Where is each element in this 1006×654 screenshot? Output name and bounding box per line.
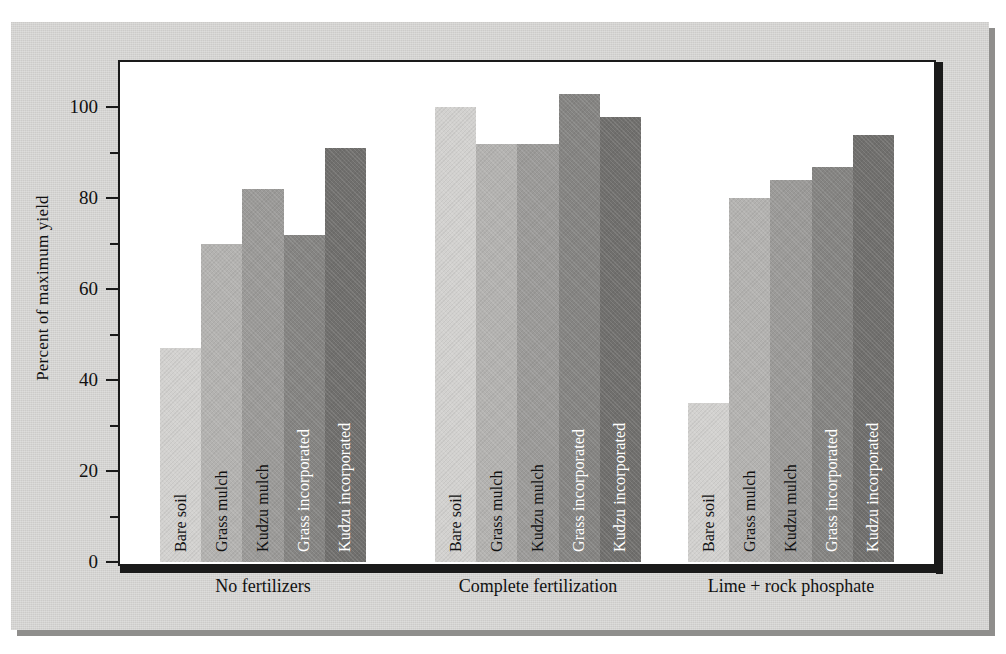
bar: Grass incorporated	[559, 94, 600, 562]
y-axis-tick-label: 80	[42, 188, 98, 207]
x-axis-group-label: No fertilizers	[120, 576, 406, 597]
y-axis-major-tick	[106, 288, 120, 290]
y-axis-minor-tick	[110, 425, 120, 427]
bar: Kudzu incorporated	[325, 148, 366, 562]
bar-label: Kudzu incorporated	[865, 423, 881, 552]
bar-label: Bare soil	[701, 494, 717, 552]
plot-frame-bottom-shadow	[120, 566, 943, 573]
y-axis-minor-tick	[110, 334, 120, 336]
y-axis-tick-label: 60	[42, 279, 98, 298]
y-axis-tick-label: 20	[42, 461, 98, 480]
y-axis-minor-tick	[110, 516, 120, 518]
bar: Kudzu incorporated	[853, 135, 894, 562]
bar: Grass mulch	[729, 198, 770, 562]
bar-label: Grass incorporated	[824, 429, 840, 552]
y-axis-minor-tick	[110, 152, 120, 154]
bar-label: Grass mulch	[742, 470, 758, 552]
bar: Bare soil	[688, 403, 729, 562]
bar: Bare soil	[160, 348, 201, 562]
bar-label: Grass mulch	[214, 470, 230, 552]
bar-label: Grass incorporated	[571, 429, 587, 552]
y-axis-major-tick	[106, 470, 120, 472]
bar-label: Kudzu incorporated	[612, 423, 628, 552]
bar-label: Bare soil	[448, 494, 464, 552]
y-axis-tick-label: 0	[42, 552, 98, 571]
bar-label: Bare soil	[173, 494, 189, 552]
bar: Grass incorporated	[812, 167, 853, 562]
x-axis-group-label: Lime + rock phosphate	[648, 576, 934, 597]
x-axis-group-label: Complete fertilization	[395, 576, 681, 597]
bar-label: Kudzu incorporated	[337, 423, 353, 552]
bar-label: Kudzu mulch	[530, 464, 546, 552]
y-axis-major-tick	[106, 197, 120, 199]
bars-layer: Bare soilGrass mulchKudzu mulchGrass inc…	[120, 62, 936, 562]
bar-label: Grass mulch	[489, 470, 505, 552]
bar: Grass mulch	[201, 244, 242, 562]
y-axis-major-tick	[106, 106, 120, 108]
bar: Kudzu mulch	[770, 180, 811, 562]
y-axis-tick-label: 40	[42, 370, 98, 389]
y-axis-minor-tick	[110, 243, 120, 245]
bar: Grass mulch	[476, 144, 517, 562]
bar: Kudzu incorporated	[600, 117, 641, 562]
figure-container: Percent of maximum yield 020406080100 Ba…	[0, 0, 1006, 654]
y-axis-tick-label: 100	[42, 97, 98, 116]
bar: Grass incorporated	[284, 235, 325, 562]
bar: Kudzu mulch	[242, 189, 283, 562]
bar-label: Kudzu mulch	[255, 464, 271, 552]
plot-frame-right-shadow	[936, 62, 943, 574]
y-axis-major-tick	[106, 379, 120, 381]
bar: Kudzu mulch	[517, 144, 558, 562]
bar-label: Grass incorporated	[296, 429, 312, 552]
bar-label: Kudzu mulch	[783, 464, 799, 552]
bar: Bare soil	[435, 107, 476, 562]
y-axis-major-tick	[106, 561, 120, 563]
